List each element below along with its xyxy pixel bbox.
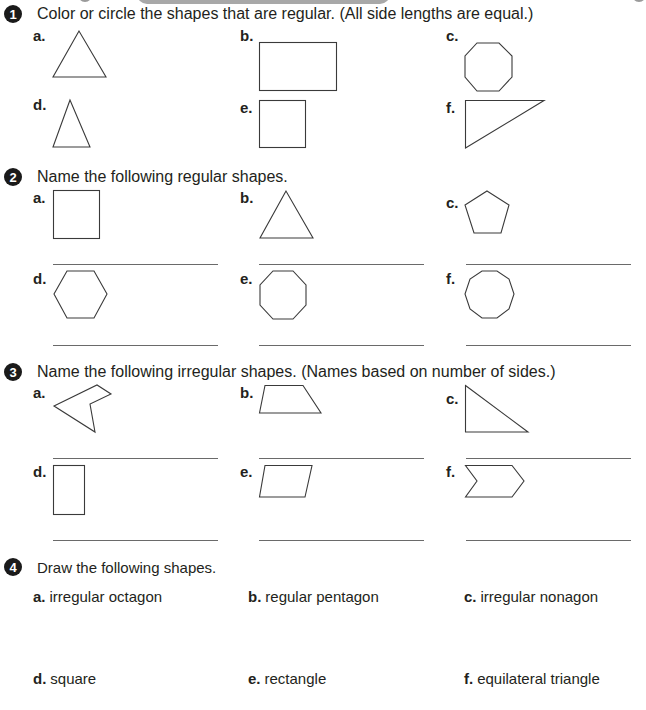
item-label: f.: [464, 670, 473, 687]
item-label: b.: [240, 384, 253, 401]
item-text: irregular octagon: [50, 588, 163, 605]
item-label: d.: [33, 463, 46, 480]
answer-line[interactable]: [259, 345, 424, 346]
question-4-header: 4 Draw the following shapes.: [4, 558, 216, 576]
equilateral-triangle-icon[interactable]: [52, 30, 108, 80]
item-label: a.: [33, 189, 46, 206]
answer-line[interactable]: [259, 458, 424, 459]
header-decoration-left: [78, 0, 92, 2]
item-label: d.: [33, 96, 46, 113]
answer-line[interactable]: [466, 458, 631, 459]
question-number-badge: 1: [4, 5, 22, 23]
item-text: square: [50, 670, 96, 687]
item-label: f.: [446, 99, 455, 116]
right-triangle-icon[interactable]: [465, 385, 531, 435]
question-number-badge: 4: [4, 558, 22, 576]
draw-item-a[interactable]: a.irregular octagon: [33, 588, 162, 605]
item-label: d.: [33, 670, 46, 687]
item-label: f.: [446, 463, 455, 480]
item-label: c.: [464, 588, 477, 605]
question-number-badge: 2: [4, 168, 22, 186]
answer-line[interactable]: [259, 540, 424, 541]
answer-line[interactable]: [53, 264, 218, 265]
item-label: e.: [248, 670, 261, 687]
answer-line[interactable]: [466, 264, 631, 265]
item-label: e.: [240, 99, 253, 116]
draw-item-c[interactable]: c.irregular nonagon: [464, 588, 598, 605]
right-triangle-icon[interactable]: [465, 100, 547, 152]
question-instruction: Draw the following shapes.: [37, 559, 216, 576]
chevron-hexagon-icon[interactable]: [465, 465, 527, 499]
question-2-header: 2 Name the following regular shapes.: [4, 168, 288, 186]
parallelogram-icon[interactable]: [259, 465, 315, 499]
answer-line[interactable]: [466, 540, 631, 541]
equilateral-triangle-icon[interactable]: [259, 190, 315, 240]
question-instruction: Color or circle the shapes that are regu…: [37, 5, 533, 23]
header-bar: [137, 0, 390, 4]
item-label: a.: [33, 384, 46, 401]
octagon-icon[interactable]: [259, 270, 309, 322]
question-number-badge: 3: [4, 363, 22, 381]
hexagon-icon[interactable]: [53, 270, 109, 322]
answer-line[interactable]: [53, 345, 218, 346]
item-label: b.: [248, 588, 261, 605]
answer-line[interactable]: [466, 345, 631, 346]
item-text: rectangle: [265, 670, 327, 687]
square-icon[interactable]: [259, 100, 309, 150]
draw-item-b[interactable]: b.regular pentagon: [248, 588, 379, 605]
square-icon[interactable]: [53, 190, 103, 240]
octagon-icon[interactable]: [465, 42, 515, 94]
decagon-icon[interactable]: [465, 270, 517, 322]
item-label: b.: [240, 189, 253, 206]
item-text: equilateral triangle: [477, 670, 600, 687]
item-label: c.: [446, 390, 459, 407]
rectangle-icon[interactable]: [53, 465, 87, 517]
item-text: irregular nonagon: [481, 588, 599, 605]
answer-line[interactable]: [259, 264, 424, 265]
question-1-header: 1 Color or circle the shapes that are re…: [4, 5, 533, 23]
question-3-header: 3 Name the following irregular shapes. (…: [4, 363, 555, 381]
item-label: a.: [33, 27, 46, 44]
draw-item-e[interactable]: e.rectangle: [248, 670, 326, 687]
rectangle-icon[interactable]: [259, 42, 339, 94]
question-instruction: Name the following regular shapes.: [37, 168, 288, 186]
answer-line[interactable]: [53, 458, 218, 459]
item-label: e.: [240, 270, 253, 287]
pentagon-icon[interactable]: [465, 190, 513, 236]
answer-line[interactable]: [53, 540, 218, 541]
trapezoid-icon[interactable]: [259, 385, 323, 415]
item-text: regular pentagon: [265, 588, 378, 605]
item-label: a.: [33, 588, 46, 605]
draw-item-f[interactable]: f.equilateral triangle: [464, 670, 600, 687]
concave-pentagon-icon[interactable]: [53, 385, 113, 435]
question-instruction: Name the following irregular shapes. (Na…: [37, 363, 555, 381]
item-label: d.: [33, 270, 46, 287]
item-label: c.: [446, 27, 459, 44]
item-label: f.: [446, 270, 455, 287]
draw-item-d[interactable]: d.square: [33, 670, 96, 687]
isosceles-triangle-icon[interactable]: [52, 99, 94, 151]
header-decoration-right: [632, 0, 646, 2]
item-label: c.: [446, 194, 459, 211]
item-label: e.: [240, 463, 253, 480]
item-label: b.: [240, 27, 253, 44]
